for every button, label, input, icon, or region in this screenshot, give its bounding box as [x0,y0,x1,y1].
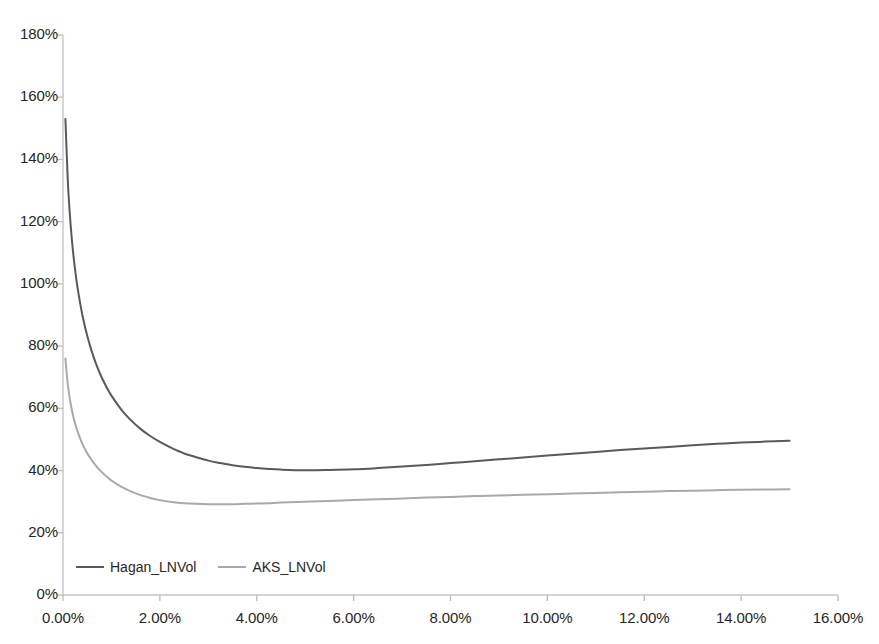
x-axis-tick-label: 0.00% [13,609,113,626]
legend-entry[interactable]: AKS_LNVol [218,559,325,575]
y-axis-tick-label: 100% [0,274,68,291]
y-axis-tick-label: 20% [0,523,68,540]
y-axis-ticks [57,35,63,595]
axes [57,35,838,601]
plot-area [0,0,879,644]
y-axis-tick-label: 80% [0,336,68,353]
y-axis-tick-label: 160% [0,87,68,104]
line-chart: 0%20%40%60%80%100%120%140%160%180% 0.00%… [0,0,879,644]
series-line-hagan-lnvol [65,119,789,470]
x-axis-tick-label: 10.00% [497,609,597,626]
y-axis-tick-label: 140% [0,149,68,166]
x-axis-tick-label: 4.00% [207,609,307,626]
y-axis-tick-label: 120% [0,212,68,229]
x-axis-tick-label: 2.00% [110,609,210,626]
x-axis-tick-label: 8.00% [401,609,501,626]
x-axis-tick-label: 16.00% [788,609,879,626]
y-axis-tick-label: 180% [0,25,68,42]
legend-entry[interactable]: Hagan_LNVol [76,559,196,575]
legend-label: AKS_LNVol [252,559,325,575]
legend-label: Hagan_LNVol [110,559,196,575]
x-axis-tick-label: 6.00% [304,609,404,626]
chart-legend: Hagan_LNVolAKS_LNVol [76,556,326,578]
x-axis-tick-label: 14.00% [691,609,791,626]
data-series-group [65,119,789,504]
x-axis-ticks [63,595,838,601]
y-axis-tick-label: 40% [0,461,68,478]
series-line-aks-lnvol [65,359,789,505]
legend-line-swatch-icon [218,566,246,568]
legend-line-swatch-icon [76,566,104,568]
y-axis-tick-label: 0% [0,585,68,602]
x-axis-tick-label: 12.00% [594,609,694,626]
y-axis-tick-label: 60% [0,398,68,415]
